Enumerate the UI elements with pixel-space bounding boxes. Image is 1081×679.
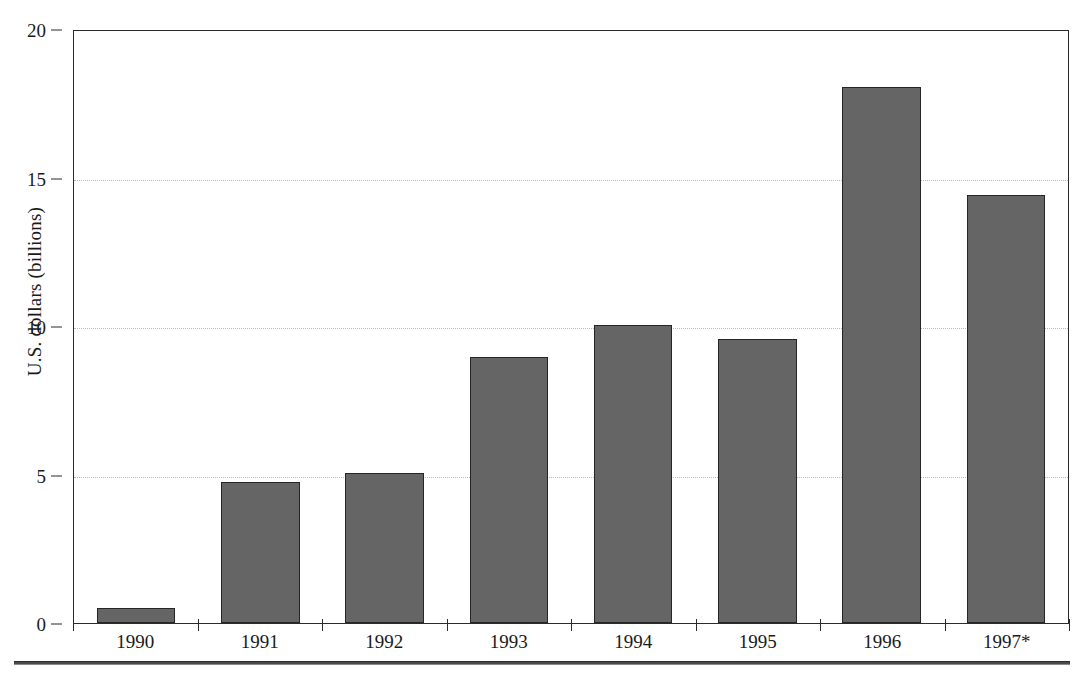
x-axis-tick-mark bbox=[198, 619, 199, 631]
x-axis-tick-mark bbox=[571, 619, 572, 631]
x-axis-tick-mark bbox=[945, 619, 946, 631]
x-axis-tick-label: 1996 bbox=[820, 632, 945, 653]
y-axis-tick-mark bbox=[51, 624, 62, 625]
bar-slot bbox=[944, 31, 1068, 623]
bar-slot bbox=[323, 31, 447, 623]
x-axis-tick-label: 1993 bbox=[447, 632, 572, 653]
y-axis-tick-mark bbox=[51, 327, 62, 328]
x-axis-labels: 19901991199219931994199519961997* bbox=[73, 632, 1069, 653]
footer-rule bbox=[14, 661, 1070, 665]
x-axis-tick-mark bbox=[73, 619, 74, 631]
bar-slot bbox=[447, 31, 571, 623]
bar-slot bbox=[74, 31, 198, 623]
plot-area bbox=[73, 30, 1069, 624]
y-axis-tick-mark bbox=[51, 30, 62, 31]
y-axis-tick-column: 05101520 bbox=[0, 0, 62, 679]
bar-chart-figure: U.S. dollars (billions) 05101520 1990199… bbox=[0, 0, 1081, 679]
x-axis-tick-mark bbox=[322, 619, 323, 631]
x-axis-tick-mark bbox=[696, 619, 697, 631]
x-axis-tick-label: 1991 bbox=[198, 632, 323, 653]
bar bbox=[967, 195, 1045, 623]
y-axis-tick-mark bbox=[51, 475, 62, 476]
x-axis-tick-label: 1992 bbox=[322, 632, 447, 653]
bar-slot bbox=[198, 31, 322, 623]
bar bbox=[594, 325, 672, 623]
x-axis-tick-label: 1990 bbox=[73, 632, 198, 653]
bar-slot bbox=[820, 31, 944, 623]
y-axis-tick-mark bbox=[51, 178, 62, 179]
bar-slot bbox=[695, 31, 819, 623]
bar bbox=[470, 357, 548, 623]
bar bbox=[345, 473, 423, 623]
y-axis-tick-label: 10 bbox=[27, 318, 46, 337]
x-axis-tick-mark bbox=[1069, 619, 1070, 631]
x-axis-tick-mark bbox=[820, 619, 821, 631]
bar-series bbox=[74, 31, 1068, 623]
y-axis-tick-label: 5 bbox=[37, 466, 47, 485]
x-axis-tick-label: 1997* bbox=[945, 632, 1070, 653]
bar bbox=[221, 482, 299, 623]
y-axis-tick-label: 15 bbox=[27, 169, 46, 188]
y-axis-tick-label: 20 bbox=[27, 21, 46, 40]
bar-slot bbox=[571, 31, 695, 623]
x-axis-tick-label: 1994 bbox=[571, 632, 696, 653]
x-axis-tick-label: 1995 bbox=[696, 632, 821, 653]
y-axis-tick-label: 0 bbox=[37, 615, 47, 634]
bar bbox=[97, 608, 175, 623]
x-axis-tick-mark bbox=[447, 619, 448, 631]
bar bbox=[718, 339, 796, 623]
bar bbox=[842, 87, 920, 623]
